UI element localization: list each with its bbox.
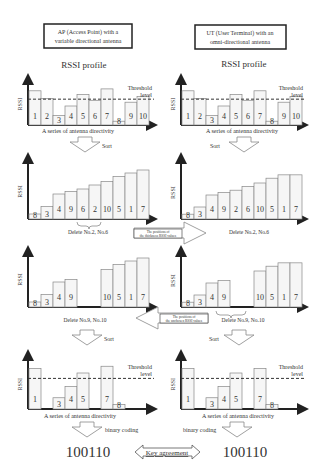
ap-sort-arrow-icon (70, 137, 100, 152)
rssi-axis-label: RSSI (170, 274, 176, 287)
ap-x-caption: A series of antenna directivity (42, 128, 114, 134)
key-agreement-arrow: Key agreement (135, 445, 200, 459)
bar-label: 3 (57, 116, 61, 125)
rssi-axis-label: RSSI (17, 273, 23, 286)
bar-label: 6 (246, 112, 250, 121)
svg-text:level: level (291, 371, 303, 377)
threshold-label: Threshold (279, 85, 303, 91)
bar-label: 3 (198, 298, 202, 307)
ut-final-chart: RSSI134578Thresholdlevel (170, 351, 307, 410)
bar-label: 1 (186, 395, 190, 404)
bar-label: 5 (81, 395, 85, 404)
bar-label: 3 (210, 400, 214, 409)
bar-label: 4 (57, 205, 61, 214)
bar-label: 4 (222, 112, 226, 121)
rssi-axis-label: RSSI (170, 186, 176, 199)
bar-label: 4 (222, 395, 226, 404)
bar-label: 2 (45, 112, 49, 121)
bar-label: 10 (139, 112, 147, 121)
bar-label: 7 (294, 293, 298, 302)
bar-label: 4 (69, 395, 73, 404)
ut-delete-label-1: Delete No.2, No.6 (229, 229, 269, 235)
svg-text:omni-directional antenna: omni-directional antenna (210, 39, 270, 45)
ap-title-box: AP (Access Point) with a variable direct… (44, 24, 132, 48)
ap-coding-label: binary coding (105, 427, 138, 433)
rssi-axis-label: RSSI (170, 378, 176, 391)
bar-label: 1 (129, 293, 133, 302)
bar-label: 2 (234, 205, 238, 214)
bar-label: 7 (105, 112, 109, 121)
svg-text:UT (User Terminal) with an: UT (User Terminal) with an (206, 30, 273, 37)
bar-label: 10 (103, 205, 111, 214)
bar-label: 6 (93, 112, 97, 121)
bar-label: 1 (33, 112, 37, 121)
bar-label: 7 (141, 205, 145, 214)
bar-label: 10 (256, 293, 264, 302)
ap-sorted-chart: RSSI83496210517 (17, 154, 156, 220)
svg-text:the thickness RSSI values: the thickness RSSI values (140, 234, 177, 238)
key-generation-diagram: AP (Access Point) with a variable direct… (0, 0, 334, 475)
ut-title-box: UT (User Terminal) with an omni-directio… (195, 25, 286, 49)
bar-label: 9 (69, 205, 73, 214)
bar-label: 1 (282, 293, 286, 302)
svg-text:Key agreement: Key agreement (146, 449, 189, 457)
ut-profile-title: RSSI profile (221, 59, 266, 69)
ap-key-value: 100110 (66, 444, 110, 460)
ut-sort-label: Sort (210, 143, 220, 149)
bar (89, 185, 101, 219)
bar-label: 3 (45, 210, 49, 219)
bar-label: 4 (210, 293, 214, 302)
bar-label: 5 (81, 112, 85, 121)
bar-label: 9 (222, 293, 226, 302)
ut-x-caption-2: A series of antenna directivity (202, 413, 274, 419)
bar-label: 4 (210, 205, 214, 214)
bar-label: 5 (117, 205, 121, 214)
bar-label: 10 (103, 293, 111, 302)
ut-x-caption: A series of antenna directivity (206, 128, 278, 134)
bar-label: 10 (292, 112, 300, 121)
bar-label: 5 (270, 205, 274, 214)
bar-label: 3 (45, 298, 49, 307)
bar-label: 9 (282, 112, 286, 121)
ut-sort-label-2: Sort (209, 336, 219, 342)
ut-delete-label-2: Delete No.9, No.10 (222, 317, 265, 323)
ap-delete-label-2: Delete No.9, No.10 (64, 317, 107, 323)
bar-label: 7 (258, 112, 262, 121)
unchosen-positions-arrow: The positions of the unchosen RSSI value… (136, 307, 208, 329)
bar-label: 5 (270, 293, 274, 302)
ap-deleted-chart: RSSI834910517 (17, 247, 156, 308)
bar-label: 8 (117, 117, 121, 126)
svg-text:level: level (140, 371, 152, 377)
bar-label: 4 (57, 293, 61, 302)
ap-sort-label-2: Sort (104, 336, 114, 342)
bar-label: 1 (186, 112, 190, 121)
ap-binary-coding-arrow-icon (72, 422, 102, 437)
svg-text:level: level (140, 92, 152, 98)
bar-label: 3 (210, 116, 214, 125)
bar-label: 8 (117, 401, 121, 410)
bar-label: 1 (33, 395, 37, 404)
bar (242, 186, 254, 219)
bar-label: 5 (117, 293, 121, 302)
bar-label: 7 (258, 395, 262, 404)
bar-label: 3 (198, 210, 202, 219)
threshold-label: Threshold (279, 364, 303, 370)
rssi-axis-label: RSSI (17, 378, 23, 391)
bar-label: 2 (93, 205, 97, 214)
ap-x-caption-2: A series of antenna directivity (44, 413, 116, 419)
bar-label: 3 (57, 400, 61, 409)
ap-rssi-profile-chart: RSSI12345678910Thresholdlevel (17, 75, 156, 126)
ut-sort-arrow-icon (229, 137, 259, 152)
bar-label: 7 (105, 395, 109, 404)
bar-label: 7 (141, 293, 145, 302)
bar-label: 2 (198, 112, 202, 121)
ap-sort-label: Sort (102, 143, 112, 149)
bar-label: 9 (129, 112, 133, 121)
bar-label: 1 (282, 205, 286, 214)
bar-label: 6 (81, 205, 85, 214)
ut-sort-arrow-2-icon (224, 330, 254, 345)
ut-binary-coding-arrow-icon (222, 422, 252, 437)
thickness-positions-arrow: The positions of the thickness RSSI valu… (134, 222, 206, 244)
threshold-label: Threshold (128, 364, 152, 370)
bar-label: 8 (270, 117, 274, 126)
